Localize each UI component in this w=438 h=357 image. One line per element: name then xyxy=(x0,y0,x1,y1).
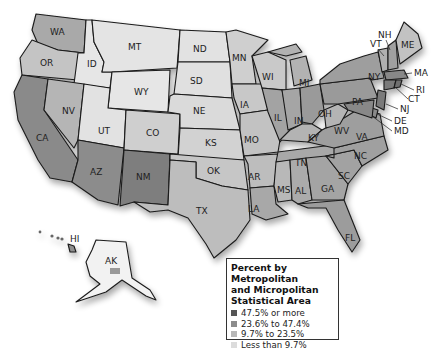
label-TX: TX xyxy=(195,206,208,216)
legend-swatch-icon xyxy=(231,310,237,316)
leader-RI xyxy=(401,84,414,90)
label-MI: MI xyxy=(299,78,309,88)
label-ND: ND xyxy=(193,44,207,54)
label-NJ: NJ xyxy=(400,104,409,114)
label-KY: KY xyxy=(308,133,320,143)
label-LA: LA xyxy=(248,204,260,214)
label-ID: ID xyxy=(87,59,97,69)
label-GA: GA xyxy=(321,184,335,194)
label-SC: SC xyxy=(338,171,350,181)
label-MT: MT xyxy=(128,42,142,52)
legend-swatch-icon xyxy=(231,331,237,337)
legend-title-line3: Statistical Area xyxy=(231,295,334,306)
label-NH: NH xyxy=(378,30,392,40)
label-IA: IA xyxy=(240,100,250,110)
label-NC: NC xyxy=(354,151,367,161)
legend-item: 23.6% to 47.4% xyxy=(231,319,334,330)
state-SD xyxy=(174,62,232,98)
alaska-hawaii xyxy=(39,231,156,302)
hi-island xyxy=(50,234,53,237)
label-AL: AL xyxy=(295,186,306,196)
state-MA xyxy=(384,70,408,80)
us-choropleth-map: WA OR CA ID NV MT WY UT AZ CO NM ND SD N… xyxy=(0,0,438,357)
state-AR xyxy=(244,154,278,188)
label-CT: CT xyxy=(408,94,420,104)
label-MD: MD xyxy=(394,126,409,136)
hi-island xyxy=(56,236,59,239)
hi-island xyxy=(39,231,42,234)
label-IL: IL xyxy=(274,113,282,123)
legend-label: Less than 9.7% xyxy=(241,340,307,351)
state-FL xyxy=(298,200,360,252)
label-AK: AK xyxy=(105,256,118,266)
legend-item: 9.7% to 23.5% xyxy=(231,329,334,340)
label-WI: WI xyxy=(262,72,274,82)
label-FL: FL xyxy=(345,233,355,243)
legend-swatch-icon xyxy=(231,342,237,348)
legend-title-line2: and Micropolitan xyxy=(231,284,334,295)
ak-shaded-area xyxy=(110,268,120,274)
label-NM: NM xyxy=(136,172,151,182)
label-VA: VA xyxy=(356,132,369,142)
label-WY: WY xyxy=(134,87,149,97)
legend-item: 47.5% or more xyxy=(231,308,334,319)
legend-item: Less than 9.7% xyxy=(231,340,334,351)
state-MS xyxy=(274,160,292,202)
label-HI: HI xyxy=(70,234,79,244)
label-KS: KS xyxy=(205,138,217,148)
label-OH: OH xyxy=(318,109,332,119)
label-WV: WV xyxy=(334,126,350,136)
label-IN: IN xyxy=(294,116,303,126)
label-DE: DE xyxy=(394,116,407,126)
label-TN: TN xyxy=(294,158,307,168)
label-NY: NY xyxy=(368,72,381,82)
label-AR: AR xyxy=(248,172,260,182)
label-WA: WA xyxy=(50,27,65,37)
label-AZ: AZ xyxy=(90,167,102,177)
legend-swatch-icon xyxy=(231,321,237,327)
legend-label: 47.5% or more xyxy=(241,308,305,319)
legend-label: 23.6% to 47.4% xyxy=(241,319,310,330)
label-PA: PA xyxy=(352,97,364,107)
leader-NJ xyxy=(386,104,398,109)
legend-title-line1: Percent by Metropolitan xyxy=(231,262,334,284)
label-ME: ME xyxy=(401,40,415,50)
label-CO: CO xyxy=(146,128,159,138)
leader-CT xyxy=(394,86,408,99)
label-MS: MS xyxy=(277,185,291,195)
label-OR: OR xyxy=(40,58,53,68)
label-UT: UT xyxy=(98,126,111,136)
legend-label: 9.7% to 23.5% xyxy=(241,329,304,340)
label-VT: VT xyxy=(370,39,382,49)
label-MA: MA xyxy=(414,68,429,78)
hi-island xyxy=(60,237,63,240)
label-NV: NV xyxy=(62,106,76,116)
label-MO: MO xyxy=(244,135,259,145)
label-NE: NE xyxy=(193,106,206,116)
map-legend: Percent by Metropolitan and Micropolitan… xyxy=(226,258,339,340)
label-CA: CA xyxy=(36,133,49,143)
state-HI xyxy=(68,244,76,252)
label-MN: MN xyxy=(232,53,247,63)
label-SD: SD xyxy=(190,76,203,86)
label-OK: OK xyxy=(207,166,221,176)
state-NJ xyxy=(376,90,386,110)
